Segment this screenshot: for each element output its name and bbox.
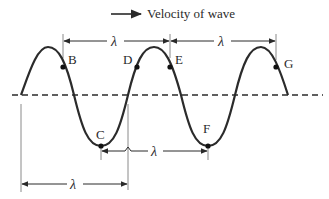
wave-curve (21, 47, 288, 146)
wavelength-label: λ (69, 177, 76, 192)
point-d-label: D (123, 52, 132, 67)
point-e-dot (167, 64, 172, 69)
point-f-dot (205, 143, 210, 148)
point-c-label: C (96, 127, 105, 142)
wavelength-bottom: λ (22, 177, 127, 192)
wave-points (60, 64, 278, 148)
guide-lines (21, 34, 276, 192)
velocity-label: Velocity of wave (147, 6, 235, 21)
point-b-dot (60, 64, 65, 69)
wavelength-label: λ (150, 144, 157, 159)
point-d-dot (134, 64, 139, 69)
point-c-dot (98, 143, 103, 148)
point-f-label: F (203, 121, 210, 136)
wavelength-label: λ (110, 34, 117, 49)
point-g-dot (273, 64, 278, 69)
wave-diagram: Velocity of wave B C D E F G λ λ (0, 0, 329, 199)
wavelength-c-to-f: λ (102, 144, 207, 159)
wavelength-label: λ (217, 34, 224, 49)
point-e-label: E (175, 52, 183, 67)
point-g-label: G (284, 56, 293, 71)
point-b-label: B (68, 52, 77, 67)
velocity-indicator: Velocity of wave (111, 6, 235, 21)
